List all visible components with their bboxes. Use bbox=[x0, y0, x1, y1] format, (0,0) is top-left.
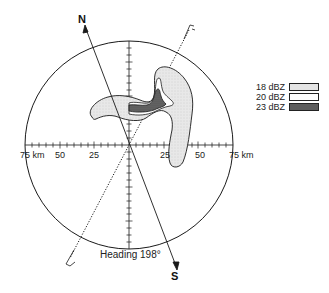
legend-item-20dbz: 20 dBZ bbox=[256, 92, 326, 102]
legend-label: 18 dBZ bbox=[256, 82, 289, 92]
echo-18dbz bbox=[90, 67, 193, 167]
axis-label-left-25: 25 bbox=[89, 151, 99, 160]
axis-label-left-50: 50 bbox=[55, 151, 65, 160]
legend-item-18dbz: 18 dBZ bbox=[256, 82, 326, 92]
axis-label-right-50: 50 bbox=[195, 151, 205, 160]
legend: 18 dBZ 20 dBZ 23 dBZ bbox=[256, 82, 326, 112]
radar-ppi-diagram bbox=[0, 0, 329, 293]
legend-swatch-20dbz bbox=[289, 93, 319, 101]
north-label: N bbox=[78, 14, 86, 25]
axis-label-right-25: 25 bbox=[160, 151, 170, 160]
legend-label: 23 dBZ bbox=[256, 102, 289, 112]
legend-item-23dbz: 23 dBZ bbox=[256, 102, 326, 112]
legend-label: 20 dBZ bbox=[256, 92, 289, 102]
legend-swatch-23dbz bbox=[289, 103, 319, 111]
south-label: S bbox=[171, 271, 178, 282]
heading-label: Heading 198° bbox=[100, 250, 161, 260]
axis-label-right-75: 75 km bbox=[229, 151, 254, 160]
legend-swatch-18dbz bbox=[289, 83, 319, 91]
axis-label-left-75: 75 km bbox=[20, 151, 45, 160]
